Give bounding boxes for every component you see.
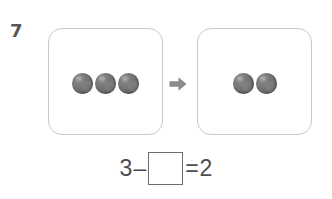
answer-input-box[interactable] bbox=[148, 152, 183, 185]
worksheet-problem: 7 3 – = 2 bbox=[0, 0, 332, 199]
before-group-box bbox=[48, 28, 163, 135]
before-marble-row bbox=[49, 73, 162, 94]
marble bbox=[95, 73, 116, 94]
equation: 3 – = 2 bbox=[0, 152, 332, 185]
marble bbox=[118, 73, 139, 94]
marble bbox=[72, 73, 93, 94]
arrow-right-icon bbox=[168, 75, 188, 93]
after-marble-row bbox=[198, 73, 311, 94]
after-group-box bbox=[197, 28, 312, 135]
equation-result: 2 bbox=[200, 157, 213, 180]
problem-number: 7 bbox=[10, 22, 23, 40]
marble bbox=[256, 73, 277, 94]
marble bbox=[233, 73, 254, 94]
equals-operator: = bbox=[184, 157, 199, 180]
minus-operator: – bbox=[132, 157, 147, 180]
equation-left-operand: 3 bbox=[120, 157, 133, 180]
